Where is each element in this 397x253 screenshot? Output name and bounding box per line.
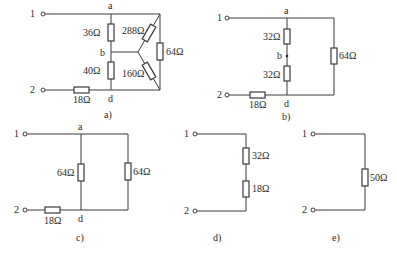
panel-a: 1 a 36Ω b 40Ω 288Ω 160Ω 64Ω 2 18Ω d [30, 0, 183, 121]
node-b-label: b [277, 50, 282, 61]
resistor-label: 18Ω [73, 94, 90, 105]
panel-b: 1 a 32Ω b 32Ω 64Ω 2 18Ω d b) [217, 5, 356, 123]
node-d-label: d [108, 93, 113, 104]
terminal-1 [41, 12, 45, 16]
terminal-1 [311, 132, 315, 136]
resistor-label: 32Ω [263, 69, 280, 80]
resistor-18 [45, 207, 60, 213]
resistor-label: 40Ω [83, 65, 100, 76]
resistor-label: 288Ω [122, 25, 144, 36]
resistor-label: 36Ω [83, 27, 100, 38]
resistor-label: 64Ω [133, 166, 150, 177]
node-d-label: d [284, 98, 289, 109]
resistor-label: 32Ω [263, 31, 280, 42]
panel-caption: b) [282, 111, 290, 123]
resistor-40 [108, 62, 114, 79]
panel-caption: d) [213, 232, 221, 244]
terminal-2 [193, 209, 197, 213]
panel-caption: e) [332, 232, 340, 244]
circuit-diagram: 1 a 36Ω b 40Ω 288Ω 160Ω 64Ω 2 18Ω d [0, 0, 397, 253]
terminal-2 [311, 208, 315, 212]
resistor-label: 32Ω [252, 150, 269, 161]
resistor-64-right [125, 163, 131, 180]
resistor-50 [362, 169, 368, 186]
terminal-2 [41, 88, 45, 92]
resistor-18 [243, 181, 249, 197]
panel-caption: a) [104, 109, 112, 121]
resistor-label: 64Ω [339, 50, 356, 61]
terminal-2 [225, 93, 229, 97]
terminal-1-label: 1 [14, 128, 19, 139]
resistor-label: 18Ω [44, 215, 61, 226]
terminal-2 [23, 208, 27, 212]
panel-d: 1 32Ω 18Ω 2 d) [184, 128, 269, 244]
terminal-1 [193, 132, 197, 136]
node-d-label: d [78, 213, 83, 224]
node-a-label: a [108, 0, 113, 11]
panel-c: 1 a 64Ω 64Ω 2 18Ω d c) [14, 121, 150, 244]
resistor-label: 160Ω [122, 68, 144, 79]
resistor-label: 64Ω [166, 46, 183, 57]
terminal-2-label: 2 [14, 204, 19, 215]
terminal-2-label: 2 [184, 205, 189, 216]
resistor-label: 18Ω [252, 183, 269, 194]
resistor-32-upper [284, 29, 290, 44]
terminal-2-label: 2 [302, 204, 307, 215]
terminal-2-label: 2 [30, 84, 35, 95]
panel-e: 1 50Ω 2 e) [302, 128, 387, 244]
node-b-dot [286, 55, 289, 58]
resistor-18 [74, 87, 89, 93]
resistor-32-lower [284, 66, 290, 81]
resistor-64-left [78, 164, 84, 181]
node-a-label: a [78, 121, 83, 132]
panel-caption: c) [76, 232, 84, 244]
resistor-64 [157, 43, 163, 60]
resistor-32 [243, 148, 249, 164]
resistor-64 [331, 48, 337, 64]
terminal-1 [225, 16, 229, 20]
node-b-label: b [100, 47, 105, 58]
terminal-1-label: 1 [302, 128, 307, 139]
resistor-18 [250, 92, 265, 98]
terminal-2-label: 2 [217, 89, 222, 100]
resistor-label: 18Ω [249, 99, 266, 110]
terminal-1 [23, 132, 27, 136]
resistor-label: 50Ω [370, 172, 387, 183]
node-a-label: a [284, 5, 289, 16]
terminal-1-label: 1 [184, 128, 189, 139]
terminal-1-label: 1 [217, 12, 222, 23]
resistor-36 [108, 24, 114, 41]
resistor-label: 64Ω [57, 167, 74, 178]
terminal-1-label: 1 [30, 8, 35, 19]
